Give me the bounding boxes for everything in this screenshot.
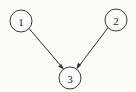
edge-2-to-3 bbox=[76, 28, 108, 70]
node-2[interactable]: 2 bbox=[105, 9, 127, 31]
edge-2-to-3-line bbox=[78, 28, 109, 68]
graph-canvas: 1 2 3 bbox=[0, 0, 136, 92]
node-3[interactable]: 3 bbox=[59, 67, 81, 89]
edge-1-to-3-line bbox=[29, 29, 63, 68]
node-1-label: 1 bbox=[18, 16, 24, 28]
directed-graph-figure: 1 2 3 bbox=[0, 0, 136, 92]
node-1[interactable]: 1 bbox=[10, 10, 32, 32]
node-2-label: 2 bbox=[113, 15, 119, 27]
edge-1-to-3 bbox=[29, 29, 64, 70]
node-3-label: 3 bbox=[67, 73, 73, 85]
